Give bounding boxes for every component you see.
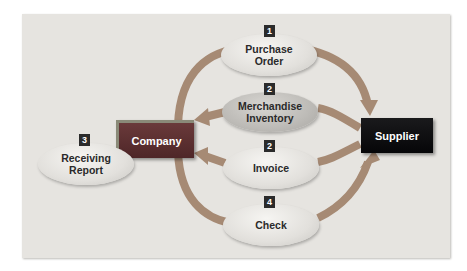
- step-badge-3: 3: [79, 134, 90, 146]
- step-badge-2b: 2: [264, 140, 275, 152]
- check-document: Check: [223, 204, 319, 246]
- doc-label-line2: Inventory: [246, 112, 293, 124]
- step-badge-4: 4: [264, 196, 275, 208]
- doc-label-line2: Report: [69, 164, 103, 176]
- company-node: Company: [116, 120, 194, 158]
- receiving-report-document: Receiving Report: [38, 143, 134, 185]
- merchandise-inventory-document: Merchandise Inventory: [222, 92, 318, 132]
- doc-label-line1: Receiving: [61, 152, 111, 164]
- step-badge-1: 1: [264, 25, 275, 37]
- doc-label-line1: Purchase: [245, 43, 292, 55]
- doc-label-line2: Order: [255, 55, 284, 67]
- step-badge-2a: 2: [264, 83, 275, 95]
- doc-label-line1: Merchandise: [238, 100, 302, 112]
- invoice-document: Invoice: [223, 147, 319, 189]
- doc-label-line1: Check: [255, 219, 287, 231]
- supplier-label: Supplier: [375, 130, 419, 142]
- supplier-node: Supplier: [361, 118, 433, 153]
- company-label: Company: [131, 135, 181, 147]
- purchase-order-document: Purchase Order: [221, 34, 317, 76]
- doc-label-line1: Invoice: [253, 162, 289, 174]
